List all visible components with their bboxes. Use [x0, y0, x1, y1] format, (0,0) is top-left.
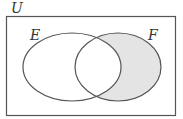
venn-diagram: U E F — [0, 0, 183, 119]
set-e-label: E — [29, 27, 40, 43]
universe-label: U — [11, 0, 24, 16]
set-f-label: F — [147, 27, 159, 43]
